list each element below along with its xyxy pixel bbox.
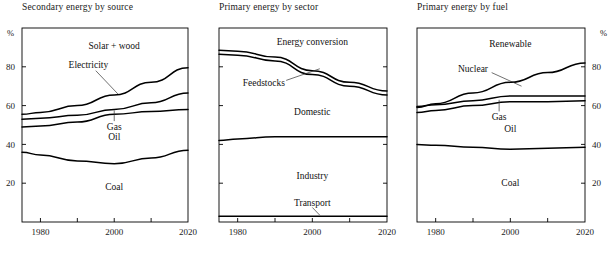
- band-label-electricity: Electricity: [69, 60, 109, 70]
- x-tick-label: 2000: [303, 227, 322, 237]
- y-tick-label: 80: [592, 62, 602, 72]
- leader-line: [96, 71, 118, 94]
- y-tick-label: 40: [592, 140, 602, 150]
- energy-figure: Secondary energy by source % 19802000202…: [0, 0, 613, 257]
- boundary-curve-electricity: [22, 68, 188, 115]
- band-label-feedstocks: Feedstocks: [243, 78, 286, 88]
- chart-panel-secondary-energy-by-source: Secondary energy by source % 19802000202…: [0, 0, 205, 257]
- y-tick-label: 60: [592, 101, 602, 111]
- band-label-renewable: Renewable: [489, 39, 531, 49]
- y-tick-label: 20: [592, 178, 602, 188]
- plot-area: 19802000202020406080CoalOilGasElectricit…: [0, 0, 205, 257]
- band-label-coal: Coal: [105, 182, 123, 192]
- band-label-energy-conversion: Energy conversion: [277, 37, 349, 47]
- plot-frame: [417, 28, 585, 222]
- x-tick-label: 1980: [229, 227, 248, 237]
- x-tick-label: 2020: [576, 227, 595, 237]
- plot-area: 198020002020TransportIndustryDomesticFee…: [205, 0, 405, 257]
- x-tick-label: 1980: [31, 227, 50, 237]
- band-label-industry: Industry: [296, 171, 328, 181]
- band-label-gas: Gas: [492, 112, 507, 122]
- boundary-curve-coal: [417, 144, 585, 149]
- band-label-oil: Oil: [108, 132, 121, 142]
- chart-panel-primary-energy-by-sector: Primary energy by sector 198020002020Tra…: [205, 0, 405, 257]
- band-label-solar-wood: Solar + wood: [89, 41, 141, 51]
- x-tick-label: 2020: [179, 227, 198, 237]
- plot-frame: [219, 28, 387, 222]
- y-tick-label: 20: [6, 178, 16, 188]
- y-tick-label: 80: [6, 62, 16, 72]
- plot-area: 19802000202020406080CoalOilGasNuclearRen…: [405, 0, 613, 257]
- boundary-curve-industry: [219, 137, 387, 141]
- x-tick-label: 1980: [427, 227, 446, 237]
- leader-line: [312, 207, 319, 215]
- boundary-curve-coal: [22, 150, 188, 164]
- band-label-coal: Coal: [501, 178, 519, 188]
- band-label-nuclear: Nuclear: [458, 64, 489, 74]
- leader-line: [492, 73, 522, 87]
- band-label-oil: Oil: [504, 124, 516, 134]
- chart-panel-primary-energy-by-fuel: Primary energy by fuel % 198020002020204…: [405, 0, 613, 257]
- band-label-gas: Gas: [107, 122, 122, 132]
- x-tick-label: 2000: [105, 227, 124, 237]
- y-tick-label: 60: [6, 101, 16, 111]
- band-label-transport: Transport: [294, 198, 331, 208]
- band-label-domestic: Domestic: [294, 107, 330, 117]
- y-tick-label: 40: [6, 140, 16, 150]
- x-tick-label: 2020: [378, 227, 397, 237]
- x-tick-label: 2000: [501, 227, 519, 237]
